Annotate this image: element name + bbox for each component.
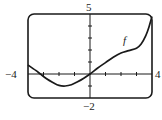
graph-plot — [0, 0, 162, 120]
curve-label-f: f — [123, 35, 126, 46]
x-max-label: 4 — [155, 69, 161, 80]
y-min-label: −2 — [83, 101, 95, 112]
y-max-label: 5 — [86, 2, 92, 13]
x-min-label: −4 — [5, 69, 17, 80]
